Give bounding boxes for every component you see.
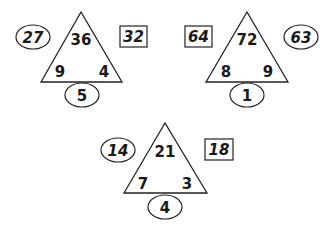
triangle-top-number: 21: [155, 143, 176, 161]
right-outside-number: 63: [291, 29, 312, 47]
right-outside-number: 32: [123, 28, 144, 46]
bottom-number: 1: [242, 87, 252, 105]
triangle-right-number: 4: [99, 63, 109, 81]
left-outside-number: 64: [188, 28, 209, 46]
puzzle-3: 21 7 3 4 14 18: [101, 123, 233, 219]
triangle-left-number: 8: [221, 63, 231, 81]
left-outside-number: 27: [23, 29, 44, 47]
triangle-right-number: 3: [182, 175, 192, 193]
triangle-left-number: 7: [138, 175, 148, 193]
puzzle-1: 36 9 4 5 27 32: [16, 12, 147, 107]
triangle-left-number: 9: [55, 63, 65, 81]
bottom-number: 4: [160, 199, 170, 217]
triangle-top-number: 36: [71, 31, 92, 49]
right-outside-number: 18: [209, 141, 230, 159]
puzzle-2: 72 8 9 1 64 63: [185, 12, 318, 107]
triangle-right-number: 9: [263, 63, 273, 81]
triangle-puzzle-diagram: 36 9 4 5 27 32 72 8 9 1 64 63 21 7 3 4 1…: [0, 0, 332, 234]
bottom-number: 5: [77, 87, 87, 105]
left-outside-number: 14: [108, 142, 129, 160]
triangle-top-number: 72: [237, 31, 258, 49]
